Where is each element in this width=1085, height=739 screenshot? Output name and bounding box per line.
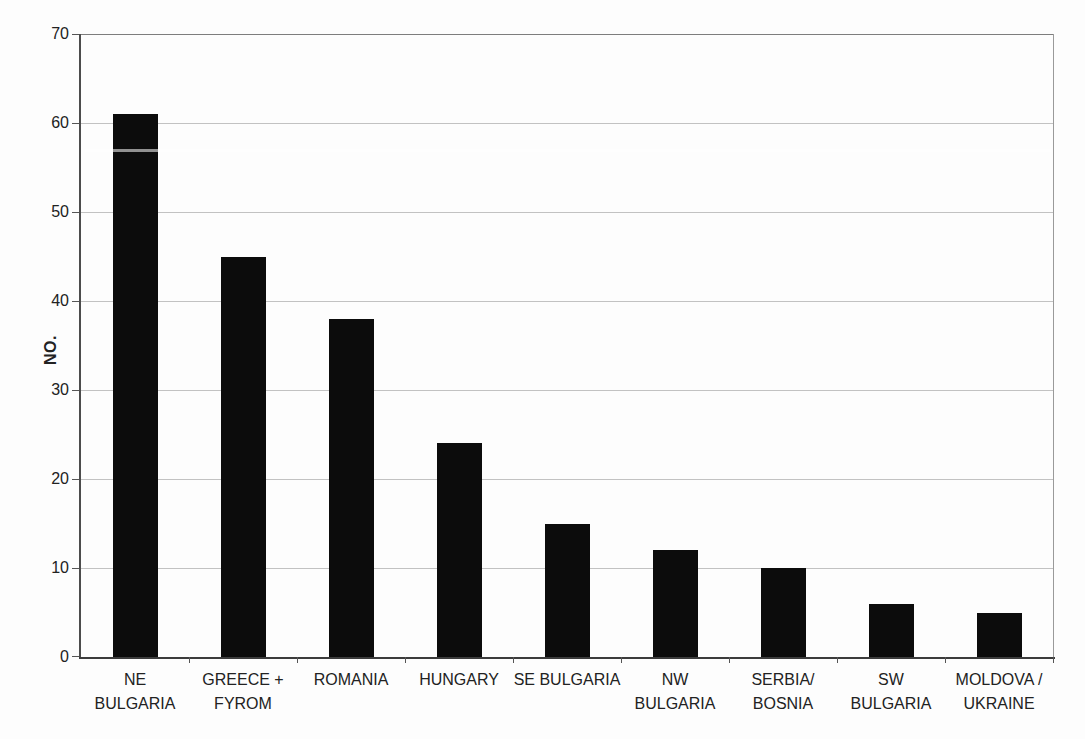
gridline-50 [81, 212, 1053, 213]
bar-serbia-bosnia [761, 568, 806, 657]
y-tick-label-0: 0 [33, 647, 69, 667]
y-tick-label-40: 40 [33, 291, 69, 311]
bar-greece-fyrom [221, 257, 266, 657]
category-label-line: MOLDOVA / [935, 668, 1063, 692]
y-tick-label-70: 70 [33, 24, 69, 44]
bar-romania [329, 319, 374, 657]
y-tick-label-10: 10 [33, 558, 69, 578]
bar-ne-bulgaria [113, 114, 158, 657]
y-tick-label-50: 50 [33, 202, 69, 222]
bar-moldova-ukraine [977, 613, 1022, 657]
plot-border-top [81, 34, 1054, 35]
plot-border-right [1053, 34, 1054, 657]
y-tick-50 [72, 212, 79, 213]
plot-area: 010203040506070 [81, 34, 1053, 657]
bar-nw-bulgaria [653, 550, 698, 657]
x-tick-8 [945, 657, 946, 663]
x-tick-9 [1053, 657, 1054, 663]
y-tick-60 [72, 123, 79, 124]
scan-artifact-streak [85, 149, 1051, 152]
axis-x-line [79, 657, 1055, 659]
y-axis-title: NO. [41, 310, 61, 390]
y-tick-label-30: 30 [33, 380, 69, 400]
y-tick-30 [72, 390, 79, 391]
x-tick-3 [405, 657, 406, 663]
x-tick-1 [189, 657, 190, 663]
y-tick-label-60: 60 [33, 113, 69, 133]
category-label-line: UKRAINE [935, 692, 1063, 716]
y-tick-70 [72, 34, 79, 35]
category-label-moldova-ukraine: MOLDOVA /UKRAINE [935, 668, 1063, 716]
bar-se-bulgaria [545, 524, 590, 657]
x-tick-5 [621, 657, 622, 663]
y-tick-0 [72, 656, 79, 657]
x-tick-7 [837, 657, 838, 663]
x-tick-4 [513, 657, 514, 663]
axis-y-line [79, 34, 81, 659]
bar-hungary [437, 443, 482, 657]
y-tick-10 [72, 568, 79, 569]
x-tick-6 [729, 657, 730, 663]
y-tick-40 [72, 301, 79, 302]
bar-sw-bulgaria [869, 604, 914, 657]
y-tick-20 [72, 479, 79, 480]
x-tick-2 [297, 657, 298, 663]
y-tick-label-20: 20 [33, 469, 69, 489]
gridline-60 [81, 123, 1053, 124]
figure: NO. 010203040506070 NEBULGARIAGREECE +FY… [0, 0, 1085, 739]
category-label-line: FYROM [179, 692, 307, 716]
